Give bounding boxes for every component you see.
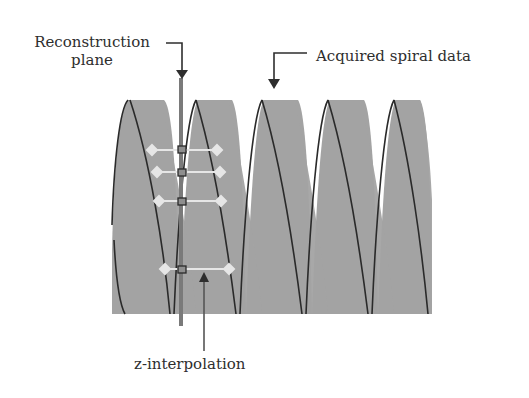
reconstruction-plane-arrow <box>166 43 188 79</box>
acquired-spiral-data-arrow <box>268 53 307 89</box>
spiral-helix <box>112 100 432 314</box>
spiral-diagram <box>0 0 529 398</box>
